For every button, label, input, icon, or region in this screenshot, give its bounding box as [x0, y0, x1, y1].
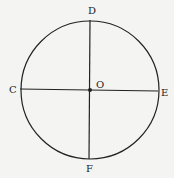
label-E: E	[161, 87, 168, 98]
label-D: D	[88, 5, 96, 16]
label-O: O	[96, 79, 104, 90]
circle-diagram: D C E F O	[0, 0, 174, 178]
label-C: C	[9, 84, 17, 95]
label-F: F	[86, 163, 93, 174]
center-point-O	[88, 88, 92, 92]
